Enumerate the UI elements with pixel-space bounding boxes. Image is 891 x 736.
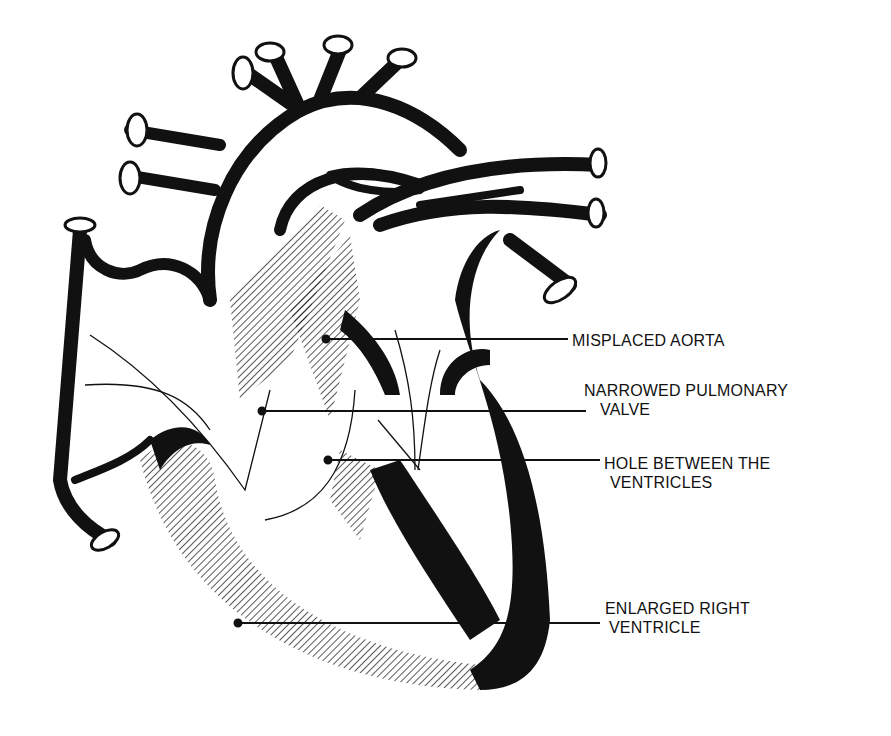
label-line: VENTRICLES — [604, 473, 771, 492]
heart-diagram — [0, 0, 891, 736]
label-line: VENTRICLE — [605, 618, 750, 637]
label-misplaced-aorta: MISPLACED AORTA — [572, 331, 725, 350]
label-line: NARROWED PULMONARY — [584, 381, 788, 400]
label-hole-between-ventricles: HOLE BETWEEN THE VENTRICLES — [604, 454, 771, 492]
label-narrowed-pulmonary-valve: NARROWED PULMONARY VALVE — [584, 381, 788, 419]
label-line: VALVE — [584, 400, 788, 419]
label-line: ENLARGED RIGHT — [605, 599, 750, 618]
label-enlarged-right-ventricle: ENLARGED RIGHT VENTRICLE — [605, 599, 750, 637]
label-line: MISPLACED AORTA — [572, 331, 725, 350]
label-line: HOLE BETWEEN THE — [604, 454, 771, 473]
